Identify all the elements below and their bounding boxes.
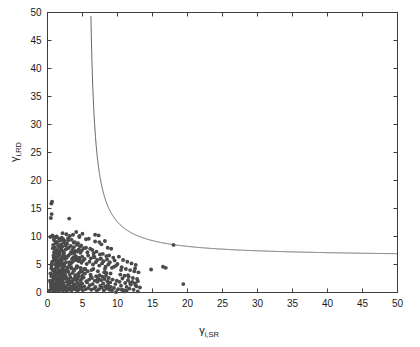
scatter-point — [95, 250, 99, 254]
scatter-point — [49, 216, 53, 220]
scatter-point — [56, 259, 60, 263]
x-tick-label: 5 — [80, 298, 86, 309]
scatter-point — [83, 257, 87, 261]
scatter-point — [89, 275, 93, 279]
scatter-point — [94, 285, 98, 289]
scatter-point — [71, 233, 75, 237]
scatter-point — [67, 217, 71, 221]
chart-canvas: 05101520253035404550 0510152025303540455… — [0, 0, 420, 347]
scatter-point — [106, 246, 110, 250]
scatter-point — [110, 288, 114, 292]
scatter-point — [104, 271, 108, 275]
scatter-point — [126, 273, 130, 277]
scatter-point — [113, 282, 117, 286]
scatter-point — [49, 266, 53, 270]
scatter-point — [133, 266, 137, 270]
scatter-point — [77, 234, 81, 238]
scatter-point — [85, 250, 89, 254]
y-tick-label: 45 — [30, 35, 42, 46]
scatter-point — [76, 241, 80, 245]
scatter-point — [86, 269, 90, 273]
scatter-point — [64, 232, 68, 236]
scatter-point — [93, 240, 97, 244]
scatter-point — [108, 260, 112, 264]
scatter-point — [128, 281, 132, 285]
scatter-point — [119, 284, 123, 288]
scatter-point — [61, 231, 65, 235]
scatter-point — [117, 255, 121, 259]
scatter-point — [97, 233, 101, 237]
x-tick-label: 20 — [182, 298, 194, 309]
scatter-point — [86, 254, 90, 258]
y-tick-label: 0 — [36, 287, 42, 298]
scatter-point — [121, 258, 125, 262]
scatter-point — [72, 245, 76, 249]
x-tick-label: 25 — [217, 298, 229, 309]
scatter-point — [136, 289, 140, 293]
figure-background — [0, 0, 420, 347]
scatter-point — [84, 246, 88, 250]
scatter-point — [64, 260, 68, 264]
scatter-point — [107, 276, 111, 280]
scatter-point — [120, 277, 124, 281]
scatter-point — [75, 266, 79, 270]
scatter-point — [149, 268, 153, 272]
scatter-point — [134, 263, 138, 267]
scatter-point — [71, 251, 75, 255]
scatter-point — [50, 200, 54, 204]
x-tick-label: 30 — [252, 298, 264, 309]
scatter-point — [120, 288, 124, 292]
scatter-point — [50, 212, 54, 216]
scatter-point — [59, 269, 63, 273]
scatter-point — [116, 262, 120, 266]
x-tick-label: 50 — [392, 298, 404, 309]
scatter-point — [95, 258, 99, 262]
scatter-point — [82, 267, 86, 271]
y-tick-label: 20 — [30, 175, 42, 186]
scatter-point — [68, 260, 72, 264]
scatter-point — [109, 247, 113, 251]
scatter-point — [125, 289, 129, 293]
x-tick-label: 10 — [112, 298, 124, 309]
scatter-point — [125, 260, 129, 264]
scatter-point — [77, 274, 81, 278]
scatter-point — [107, 254, 111, 258]
scatter-point — [103, 267, 107, 271]
scatter-point — [181, 282, 185, 286]
scatter-point — [132, 288, 136, 292]
scatter-point — [55, 264, 59, 268]
x-tick-label: 15 — [147, 298, 159, 309]
scatter-point — [113, 259, 117, 263]
scatter-point — [102, 259, 106, 263]
scatter-point — [74, 230, 78, 234]
y-tick-label: 5 — [36, 259, 42, 270]
scatter-point — [112, 265, 116, 269]
scatter-point — [81, 232, 85, 236]
x-tick-label: 40 — [322, 298, 334, 309]
scatter-point — [76, 258, 80, 262]
scatter-point — [91, 267, 95, 271]
scatter-point — [137, 270, 141, 274]
scatter-point — [84, 237, 88, 241]
scatter-point — [66, 238, 70, 242]
scatter-point — [93, 233, 97, 237]
scatter-point — [103, 239, 107, 243]
scatter-point — [96, 269, 100, 273]
scatter-point — [72, 241, 76, 245]
scatter-point — [62, 251, 66, 255]
scatter-point — [105, 258, 109, 262]
scatter-plot-figure: 05101520253035404550 0510152025303540455… — [0, 0, 420, 347]
scatter-point — [91, 282, 95, 286]
scatter-point — [134, 283, 138, 287]
scatter-point — [92, 254, 96, 258]
y-tick-label: 40 — [30, 63, 42, 74]
scatter-point — [109, 272, 113, 276]
x-axis-title-subscript: i,SR — [205, 330, 220, 339]
scatter-point — [63, 269, 67, 273]
scatter-point — [96, 278, 100, 282]
x-tick-label: 45 — [357, 298, 369, 309]
scatter-point — [79, 244, 83, 248]
y-tick-label: 50 — [30, 7, 42, 18]
scatter-point — [111, 278, 115, 282]
y-tick-label: 25 — [30, 147, 42, 158]
